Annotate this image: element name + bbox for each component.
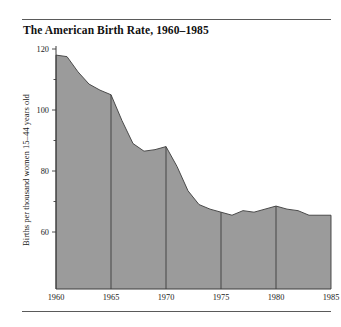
birth-rate-figure: The American Birth Rate, 1960–1985 60801…	[0, 0, 341, 327]
y-axis-ticks	[52, 49, 56, 232]
x-tick-label-1970: 1970	[158, 293, 175, 302]
y-tick-label-80: 80	[41, 167, 49, 176]
y-tick-label-60: 60	[41, 228, 49, 237]
y-tick-label-120: 120	[37, 45, 49, 54]
birth-rate-area	[56, 55, 331, 289]
footer-bottom-rule	[22, 311, 331, 312]
x-tick-label-1975: 1975	[213, 293, 230, 302]
y-tick-label-100: 100	[37, 106, 49, 115]
x-tick-label-1960: 1960	[48, 293, 65, 302]
chart-plot-area: 6080100120 196019651970197519801985 Birt…	[0, 0, 341, 327]
y-axis-title: Births per thousand women 15–44 years ol…	[21, 93, 31, 246]
x-axis-tick-labels: 196019651970197519801985	[48, 293, 340, 302]
x-tick-label-1965: 1965	[103, 293, 120, 302]
x-tick-label-1985: 1985	[323, 293, 340, 302]
x-tick-label-1980: 1980	[268, 293, 285, 302]
y-axis-tick-labels: 6080100120	[37, 45, 49, 237]
area-series-group	[56, 55, 331, 289]
